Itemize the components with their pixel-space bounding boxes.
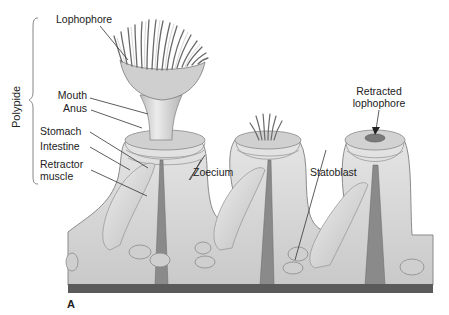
label-mouth: Mouth xyxy=(50,90,87,101)
label-retracted-line2: lophophore xyxy=(347,98,411,109)
label-retractor-line2: muscle xyxy=(40,171,73,182)
label-retractor-line1: Retractor xyxy=(40,159,83,170)
statoblasts-3 xyxy=(400,259,424,275)
label-lophophore: Lophophore xyxy=(56,14,112,25)
bryozoan-diagram: Polypide Lophophore Mouth Anus Stomach I… xyxy=(0,0,449,315)
label-statoblast: Statoblast xyxy=(310,167,357,178)
label-stomach: Stomach xyxy=(40,126,81,137)
panel-label: A xyxy=(67,298,75,310)
polypide-bracket xyxy=(29,18,38,184)
label-anus: Anus xyxy=(50,103,87,114)
label-retracted-line1: Retracted xyxy=(347,86,411,97)
substrate-bar xyxy=(68,284,433,293)
label-intestine: Intestine xyxy=(40,141,80,152)
lophophore-tentacles xyxy=(114,20,208,70)
polypide-label: Polypide xyxy=(10,86,22,128)
label-zoecium: Zoecium xyxy=(193,167,233,178)
